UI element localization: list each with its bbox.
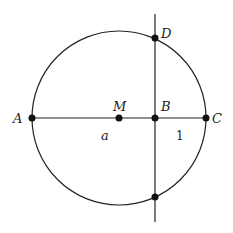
- label-m: M: [112, 99, 127, 114]
- label-segment-bc: 1: [176, 129, 184, 143]
- label-c: C: [212, 111, 222, 126]
- point-b: [152, 115, 159, 122]
- label-a: A: [12, 111, 22, 126]
- point-d: [152, 35, 159, 42]
- point-m: [116, 115, 123, 122]
- point-e: [152, 194, 159, 201]
- geometry-diagram: A M B C D a 1: [0, 0, 233, 233]
- point-a: [29, 115, 36, 122]
- label-segment-ab: a: [101, 128, 109, 143]
- point-c: [203, 115, 210, 122]
- label-d: D: [160, 26, 172, 41]
- label-b: B: [160, 99, 171, 114]
